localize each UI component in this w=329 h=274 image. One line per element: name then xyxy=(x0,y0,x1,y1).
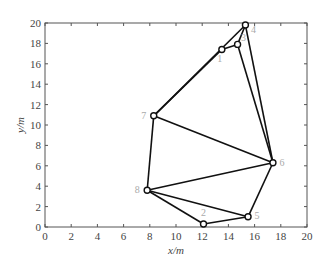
edge xyxy=(154,116,273,163)
edge xyxy=(204,217,249,224)
node-label: 6 xyxy=(279,157,284,168)
node-label: 1 xyxy=(217,53,222,64)
node-marker xyxy=(144,187,150,193)
node-marker xyxy=(242,22,248,28)
node-label: 3 xyxy=(241,32,246,43)
x-tick-label: 0 xyxy=(42,230,48,242)
edge xyxy=(147,190,248,217)
y-tick-label: 8 xyxy=(36,139,42,151)
edge xyxy=(238,44,273,162)
node-marker xyxy=(270,160,276,166)
y-tick-label: 20 xyxy=(30,17,42,29)
node-label: 5 xyxy=(255,210,260,221)
edge xyxy=(147,163,273,191)
node-label: 4 xyxy=(251,24,256,35)
x-tick-label: 6 xyxy=(121,230,127,242)
y-axis-label: y/m xyxy=(14,117,26,134)
x-tick-label: 18 xyxy=(275,230,287,242)
node-marker xyxy=(151,113,157,119)
y-tick-label: 10 xyxy=(30,119,42,131)
edge xyxy=(248,163,273,217)
network-plot: 0246810121416182002468101214161820x/my/m… xyxy=(0,0,329,274)
node-label: 7 xyxy=(141,110,146,121)
node-label: 8 xyxy=(135,184,140,195)
x-axis-label: x/m xyxy=(167,244,184,256)
y-tick-label: 14 xyxy=(30,78,42,90)
x-tick-label: 2 xyxy=(68,230,74,242)
x-tick-label: 16 xyxy=(249,230,261,242)
node-label: 2 xyxy=(201,207,206,218)
node-marker xyxy=(245,214,251,220)
y-tick-label: 2 xyxy=(36,201,42,213)
y-tick-label: 16 xyxy=(30,58,42,70)
edge xyxy=(154,25,246,116)
node-marker xyxy=(235,41,241,47)
node-marker xyxy=(201,221,207,227)
y-tick-label: 12 xyxy=(30,99,41,111)
edge xyxy=(147,190,203,224)
y-tick-label: 6 xyxy=(36,160,42,172)
x-tick-label: 4 xyxy=(95,230,101,242)
y-tick-label: 18 xyxy=(30,37,42,49)
x-tick-label: 14 xyxy=(223,230,235,242)
edge xyxy=(147,116,154,190)
x-tick-label: 12 xyxy=(197,230,208,242)
x-tick-label: 20 xyxy=(302,230,314,242)
y-tick-label: 0 xyxy=(36,221,42,233)
x-tick-label: 10 xyxy=(171,230,183,242)
x-tick-label: 8 xyxy=(147,230,153,242)
y-tick-label: 4 xyxy=(36,180,42,192)
chart: 0246810121416182002468101214161820x/my/m… xyxy=(0,0,329,274)
edge xyxy=(245,25,273,163)
